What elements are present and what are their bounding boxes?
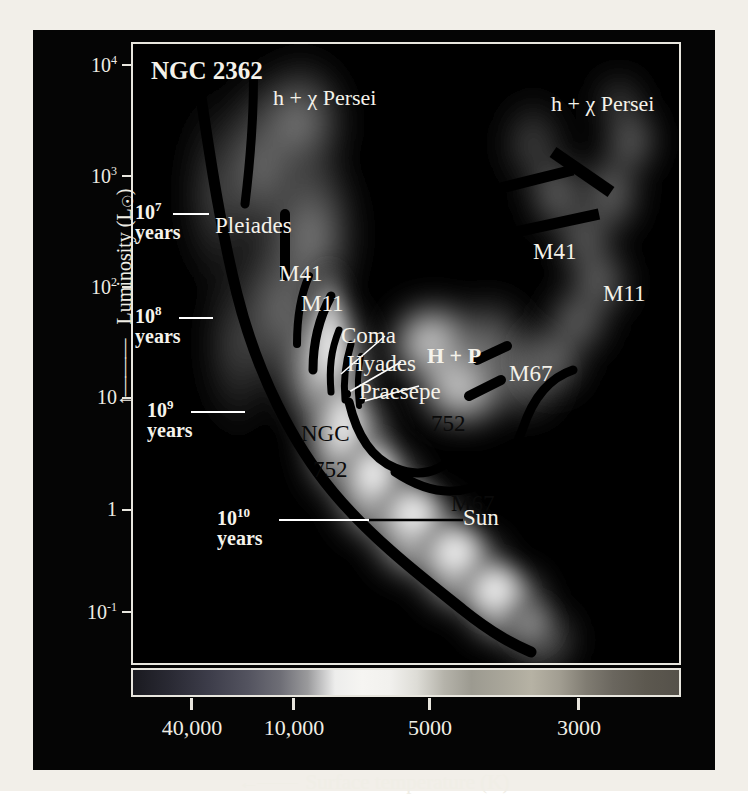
- x-tick-mark-5000: [428, 698, 431, 710]
- label-praesepe: Praesepe: [359, 380, 441, 404]
- label-ngc-2362: NGC 2362: [151, 58, 263, 84]
- age-1e8: 108 years: [135, 304, 181, 346]
- y-tick-label-1: 1: [43, 498, 117, 521]
- label-m67-giant: M67: [509, 362, 552, 386]
- label-h-chi-persei-top: h + χ Persei: [273, 86, 376, 109]
- label-sun: Sun: [463, 506, 499, 530]
- y-tick-label-1e4: 104: [43, 53, 117, 77]
- figure-panel: NGC 2362 h + χ Persei h + χ Persei Pleia…: [33, 30, 715, 770]
- label-m11-turnoff: M11: [301, 292, 344, 316]
- age-1e7-unit: years: [135, 221, 181, 243]
- age-1e9-unit: years: [147, 419, 193, 441]
- label-h-chi-persei-giant: h + χ Persei: [551, 92, 654, 115]
- spectrum-colorbar: [131, 668, 681, 697]
- y-tick-label-10: 10: [43, 386, 117, 409]
- x-tick-label-3000: 3000: [557, 715, 601, 741]
- x-tick-label-5000: 5000: [408, 715, 452, 741]
- x-tick-label-40000: 40,000: [162, 715, 223, 741]
- x-axis-arrow: ←——: [238, 770, 295, 794]
- label-m11-giant: M11: [603, 282, 646, 306]
- age-1e10-unit: years: [217, 527, 263, 549]
- age-1e9-value: 109: [147, 399, 174, 421]
- x-tick-label-10000: 10,000: [264, 715, 325, 741]
- age-1e10-value: 1010: [217, 507, 250, 529]
- label-m41-giant: M41: [533, 240, 576, 264]
- y-tick-label-1e2: 102: [43, 275, 117, 299]
- x-tick-mark-3000: [577, 698, 580, 710]
- label-752-giant: 752: [431, 412, 466, 436]
- turnoff-dot: [343, 390, 351, 398]
- label-h-plus-p: H + P: [427, 344, 481, 367]
- label-hyades: Hyades: [347, 352, 416, 376]
- age-1e10: 1010 years: [217, 506, 263, 548]
- age-1e7-value: 107: [135, 201, 162, 223]
- y-axis-title-text: Luminosity (L☉): [113, 189, 135, 325]
- x-tick-mark-10000: [292, 698, 295, 710]
- label-m41-turnoff: M41: [279, 262, 322, 286]
- x-axis-title: ←——Surface temperature (K): [33, 770, 715, 795]
- plot-area: NGC 2362 h + χ Persei h + χ Persei Pleia…: [131, 42, 681, 665]
- y-tick-mark-1e-1: [122, 611, 131, 613]
- age-1e8-value: 108: [135, 305, 162, 327]
- y-tick-mark-1e3: [122, 175, 131, 177]
- y-tick-label-1e3: 103: [43, 164, 117, 188]
- x-tick-mark-40000: [190, 698, 193, 710]
- label-coma: Coma: [341, 324, 396, 348]
- x-axis-title-text: Surface temperature (K): [305, 770, 509, 794]
- label-ngc-752-second: 752: [313, 458, 348, 482]
- label-pleiades: Pleiades: [215, 214, 292, 238]
- y-tick-mark-1e2: [122, 286, 131, 288]
- age-1e7: 107 years: [135, 200, 181, 242]
- age-1e9: 109 years: [147, 398, 193, 440]
- age-1e8-unit: years: [135, 325, 181, 347]
- y-tick-mark-10: [122, 397, 131, 399]
- label-ngc-752-first: NGC: [301, 422, 350, 446]
- y-tick-mark-1e4: [122, 64, 131, 66]
- y-tick-mark-1: [122, 509, 131, 511]
- y-tick-label-1e-1: 10-1: [37, 600, 117, 624]
